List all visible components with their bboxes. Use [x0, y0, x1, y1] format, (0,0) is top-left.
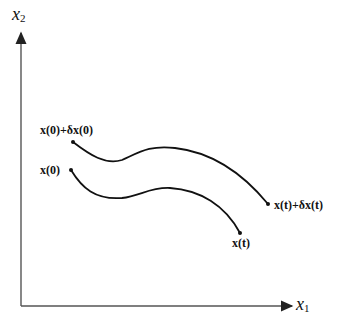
x-axis-label: x1 [296, 294, 310, 315]
upper-curve [73, 142, 268, 204]
nominal-start-label: x(0) [40, 163, 60, 178]
y-axis-label: x2 [12, 4, 26, 25]
upper-end-dot [266, 202, 270, 206]
lower-end-dot [238, 231, 242, 235]
perturbed-start-label: x(0)+δx(0) [40, 123, 93, 138]
upper-start-dot [71, 140, 75, 144]
nominal-end-label: x(t) [232, 236, 250, 251]
perturbed-end-label: x(t)+δx(t) [274, 198, 323, 213]
lower-start-dot [69, 168, 73, 172]
lower-curve [71, 170, 240, 233]
